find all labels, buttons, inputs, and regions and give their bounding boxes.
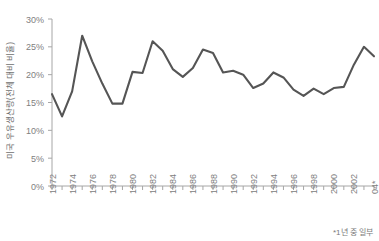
y-tick-label: 5%	[31, 154, 44, 164]
x-tick-label: 1986	[188, 174, 198, 194]
x-tick-label: 1980	[128, 174, 138, 194]
x-tick-label: 1984	[168, 174, 178, 194]
x-tick-label: 1976	[88, 174, 98, 194]
x-tick-label: 1992	[249, 174, 259, 194]
x-axis-tick-labels: 1972197419761978198019821984198619881990…	[48, 174, 379, 194]
y-axis-ticks	[48, 19, 52, 186]
x-tick-label: 1974	[68, 174, 78, 194]
y-tick-label: 10%	[26, 126, 44, 136]
x-tick-label: 1988	[209, 174, 219, 194]
y-tick-label: 0%	[31, 182, 44, 192]
chart-footnote: *1년 중 일부	[333, 226, 373, 237]
chart-plot-area: 0%5%10%15%20%25%30% 19721974197619781980…	[0, 0, 379, 241]
x-tick-label: 1978	[108, 174, 118, 194]
x-tick-label: 1972	[48, 174, 58, 194]
milk-production-line-chart: 0%5%10%15%20%25%30% 19721974197619781980…	[0, 0, 379, 241]
x-tick-label: 1982	[148, 174, 158, 194]
y-axis-tick-labels: 0%5%10%15%20%25%30%	[26, 15, 44, 192]
y-tick-label: 15%	[26, 98, 44, 108]
data-series-line	[52, 36, 374, 117]
x-tick-label: 2000	[329, 174, 339, 194]
y-tick-label: 25%	[26, 42, 44, 52]
x-tick-label: 1994	[269, 174, 279, 194]
y-tick-label: 20%	[26, 70, 44, 80]
x-tick-label: 2002	[349, 174, 359, 194]
x-tick-label: 1996	[289, 174, 299, 194]
y-tick-label: 30%	[26, 15, 44, 25]
x-tick-label: 1998	[309, 174, 319, 194]
x-tick-label: 1990	[229, 174, 239, 194]
x-tick-label: 04*	[370, 180, 379, 194]
